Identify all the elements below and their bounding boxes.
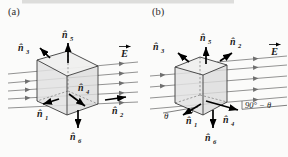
e-field-label: E: [270, 46, 278, 57]
normal-arrow-n3: [40, 48, 50, 58]
normal-label-n5-sub: 5: [208, 38, 212, 45]
normal-label-n1-sub: 1: [194, 121, 197, 128]
normal-label-n6: n̂: [70, 131, 76, 142]
page-edge-shading: [22, 0, 234, 4]
panel-a: (a) n̂ 3 n̂ 5 n̂: [8, 6, 138, 144]
normal-label-n2-sub: 2: [237, 42, 242, 49]
normal-label-n5: n̂: [62, 29, 68, 40]
normal-label-n1: n̂: [37, 108, 43, 119]
e-field-label: E: [120, 48, 128, 59]
theta-label: θ: [164, 111, 169, 121]
e-field-label-group: E: [119, 47, 131, 60]
normal-arrow-n3: [178, 53, 189, 62]
normal-label-n2-sub: 2: [119, 111, 124, 118]
normal-label-n2: n̂: [230, 36, 236, 47]
normal-arrow-n2: [220, 53, 232, 61]
normal-label-n3-sub: 3: [160, 47, 165, 54]
normal-label-n3: n̂: [153, 41, 159, 52]
e-field-label-group: E: [269, 45, 281, 58]
figure-canvas: (a) n̂ 3 n̂ 5 n̂: [0, 0, 288, 157]
normal-label-n6: n̂: [205, 132, 211, 143]
normal-label-n5: n̂: [200, 32, 206, 43]
normal-label-n1-sub: 1: [45, 114, 48, 121]
panel-a-tag: (a): [8, 6, 20, 18]
panel-b-tag: (b): [152, 6, 165, 18]
normal-label-n5-sub: 5: [70, 35, 74, 42]
normal-label-n4: n̂: [78, 82, 84, 93]
panel-b-cube: [175, 57, 227, 115]
flux-cube-figure: (a) n̂ 3 n̂ 5 n̂: [0, 0, 288, 157]
normal-arrow-n2: [105, 97, 126, 100]
normal-label-n3: n̂: [18, 42, 24, 53]
ninety-minus-theta-label: 90° − θ: [245, 100, 271, 110]
normal-label-n4: n̂: [223, 114, 229, 125]
normal-label-n1: n̂: [186, 115, 192, 126]
normal-label-n4-sub: 4: [230, 120, 235, 127]
normal-label-n6-sub: 6: [78, 137, 82, 144]
panel-b: (b) n̂ 3: [150, 6, 287, 145]
normal-label-n3-sub: 3: [25, 48, 30, 55]
normal-label-n2: n̂: [112, 105, 118, 116]
normal-label-n6-sub: 6: [213, 138, 217, 145]
